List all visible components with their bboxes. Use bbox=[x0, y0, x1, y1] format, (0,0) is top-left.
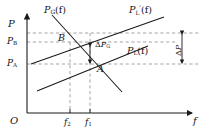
curve-label-PL-prime: PL′(f) bbox=[129, 5, 152, 17]
y-axis-label: P bbox=[8, 19, 15, 29]
x-tick-sub-f1: 1 bbox=[88, 121, 92, 127]
curve-arg-PG: (f) bbox=[55, 4, 66, 15]
point-label-A: A bbox=[97, 64, 104, 74]
figure-canvas: P O f PB PA f2 f1 PG(f) PL′(f) PL(f) B A bbox=[0, 0, 206, 135]
delta-symbol-P: Δ bbox=[174, 50, 183, 56]
y-tick-sub-PB: B bbox=[13, 40, 17, 46]
y-tick-label-PA: PA bbox=[7, 59, 17, 69]
curve-arg-PL-prime: (f) bbox=[141, 4, 152, 15]
x-axis-label: f bbox=[193, 116, 197, 126]
annotation-delta-P: ΔP bbox=[175, 45, 183, 56]
x-tick-label-f2: f2 bbox=[64, 118, 71, 128]
y-tick-label-PB: PB bbox=[7, 37, 17, 47]
axis-ticks bbox=[70, 109, 90, 113]
curve-label-PG: PG(f) bbox=[44, 5, 66, 16]
origin-label: O bbox=[10, 116, 18, 126]
curve-arg-PL: (f) bbox=[137, 45, 148, 56]
x-tick-sub-f2: 2 bbox=[67, 121, 71, 127]
y-tick-sub-PA: A bbox=[13, 62, 17, 68]
annotation-delta-PG: ΔPG bbox=[95, 41, 110, 49]
point-label-B: B bbox=[58, 33, 65, 43]
curve-label-PL: PL(f) bbox=[127, 46, 148, 57]
x-tick-label-f1: f1 bbox=[85, 118, 92, 128]
delta-sub-PG: G bbox=[106, 43, 110, 49]
